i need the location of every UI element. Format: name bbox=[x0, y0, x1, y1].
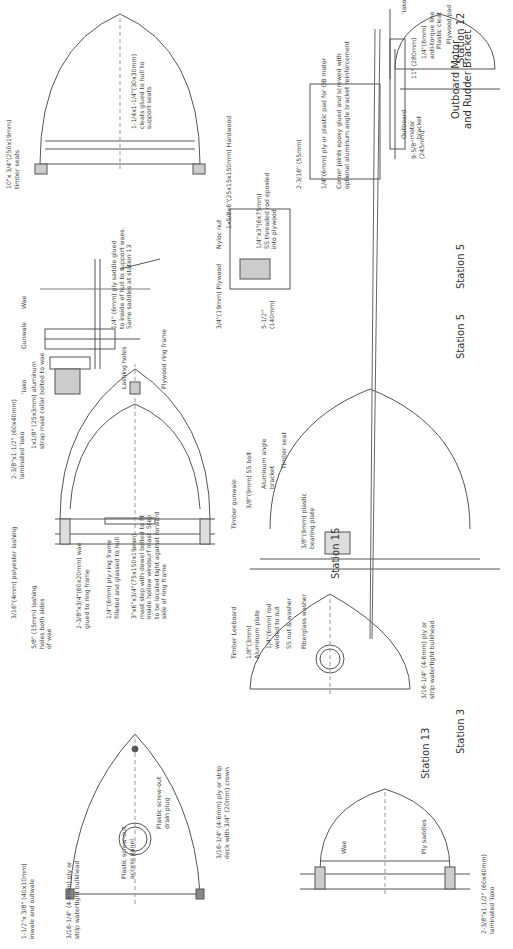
station-3-label: Plastic screw-out access panel bbox=[120, 827, 135, 879]
station-5-detail-label: 'iako bbox=[20, 380, 28, 394]
station-13-title: Station 13 bbox=[420, 728, 432, 779]
outboard-label: Plywood pad bbox=[445, 5, 453, 44]
outboard-label: Outboard motor bracket bbox=[400, 110, 423, 139]
leeboard-label: Aluminum angle bracket bbox=[260, 438, 275, 489]
station-3-title: Station 3 bbox=[455, 709, 467, 754]
station-3-label: 1-1/2"x 3/8" (40x10mm) inwale and outwal… bbox=[20, 863, 35, 939]
leeboard-label: SS nut & washer bbox=[285, 598, 293, 649]
station-13-label: 2-3/8"x1-1/2" (60x40mm) laminated 'iako bbox=[480, 854, 495, 934]
station-5-detail-label: Gunwale bbox=[20, 322, 28, 349]
station-15-label: 3/16-1/4" (4-6mm) ply or strip watertigh… bbox=[420, 621, 435, 699]
outboard-label: Nyloc nut bbox=[215, 220, 223, 249]
leeboard-label: 3/8"(9mm) plastic bearing plate bbox=[300, 493, 315, 549]
station-13-label: Wae bbox=[340, 841, 348, 854]
station-5-label: 1/4"(6mm) ply ring frame filleted and gl… bbox=[105, 537, 120, 619]
outboard-label: 3/4"(19mm) Plywood bbox=[215, 264, 223, 329]
leeboard-label: 1/8"(3mm) Aluminum plate bbox=[245, 610, 260, 659]
diagram-lines bbox=[0, 0, 513, 949]
leeboard-label: 1/4"(6mm) rod welded to nut bbox=[265, 603, 280, 649]
station-5-label: 3"x6"x3/4"(75x150x19mm) mast step with d… bbox=[130, 511, 168, 619]
leeboard-label: 3/8"(9mm) SS bolt bbox=[245, 452, 253, 509]
outboard-label: 1/4"(6mm) anti-torque line bbox=[420, 11, 435, 59]
outboard-label: 5-1/2" (140mm) bbox=[260, 300, 275, 329]
station-5-detail-title: Station 5 bbox=[455, 244, 467, 289]
leeboard-label: Timber seat bbox=[280, 432, 288, 469]
outboard-label: 11" (280mm) bbox=[410, 38, 418, 79]
outboard-label: 2-3/16" (55mm) bbox=[295, 139, 303, 189]
station-5-detail-label: Lashing holes bbox=[120, 347, 128, 389]
station-5-detail-label: Wae bbox=[20, 296, 28, 309]
outboard-label: Corner joints epoxy glued and screwed wi… bbox=[335, 41, 350, 189]
station-5-detail-label: Plywood ring frame bbox=[160, 329, 168, 389]
station-3-label: 3/16-1/4" (4-6mm) ply or strip watertigh… bbox=[65, 861, 80, 939]
station-3-label: 3/16-1/4" (4-6mm) ply or strip deck with… bbox=[215, 766, 230, 859]
station-5-label: 1x1/8" (25x3mm) aluminum strap mast coll… bbox=[30, 352, 45, 449]
station-12-label: 10"x 3/4"(250x19mm) timber seats bbox=[5, 120, 20, 189]
outboard-label: 1x5/8x6"(25x15x150mm) Hardwood bbox=[225, 116, 233, 229]
leeboard-label: Timber Leeboard bbox=[230, 607, 238, 659]
station-5-label: 2-3/8"x1-1/2" (60x40mm) laminated 'iako bbox=[10, 399, 25, 479]
station-15-title: Station 15 bbox=[330, 528, 342, 579]
leeboard-label: Timber gunwale bbox=[230, 479, 238, 529]
station-3-label: Plastic screw-out drain plug bbox=[155, 777, 170, 829]
leeboard-label: Fiberglass washer bbox=[300, 594, 308, 649]
station-13-label: Ply saddles bbox=[420, 819, 428, 854]
outboard-label: 1/4"(6mm) ply or plastic pad for OB moto… bbox=[320, 58, 328, 189]
station-12-label: 1-1/4x1-1/4"(30x30mm) cleats glued to hu… bbox=[130, 54, 153, 129]
station-5-label: 2-3/8"x3/4"(60x20mm) wae glued to ring f… bbox=[75, 543, 90, 629]
outboard-label: Plastic cleat bbox=[435, 12, 443, 49]
outboard-label: 1/4"x3"(6x75mm) SS threaded rod epoxied … bbox=[255, 173, 278, 249]
station-5-title: Station 5 bbox=[455, 314, 467, 359]
station-13-hull bbox=[300, 789, 470, 894]
station-3-hull bbox=[66, 734, 204, 904]
diagram-canvas: Station 3 Station 5 Station 5 Station 12… bbox=[0, 0, 513, 949]
outboard-title: Outboard Motor and Rudder Bracket bbox=[450, 30, 474, 129]
station-5-label: 5/8" (15mm) lashing holes both sides of … bbox=[30, 585, 53, 649]
station-5-label: 3/16"(4mm) polyester lashing bbox=[10, 526, 18, 619]
station-12-hull bbox=[35, 14, 205, 174]
outboard-label: 'iako bbox=[400, 0, 408, 14]
station-5-detail-label: 1/4" (6mm) ply saddle glued to inside of… bbox=[110, 228, 133, 329]
